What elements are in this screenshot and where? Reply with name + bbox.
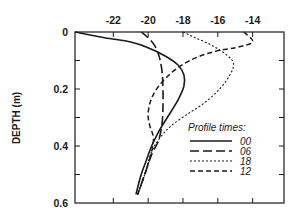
x-tick-label: -16	[210, 14, 225, 26]
x-tick-label: -14	[245, 14, 260, 26]
y-tick-label: 0.6	[53, 197, 68, 209]
curve-18	[138, 32, 234, 194]
curve-00	[75, 32, 185, 194]
x-tick-label: -18	[175, 14, 190, 26]
y-tick-label: 0.2	[53, 83, 68, 95]
x-tick-label: -20	[141, 14, 156, 26]
plot-frame	[75, 32, 284, 203]
legend-title: Profile times:	[188, 122, 246, 133]
curve-12	[138, 32, 253, 194]
y-axis-title: DEPTH (m)	[11, 92, 22, 144]
y-tick-label: 0.4	[53, 140, 68, 152]
x-tick-label: -22	[106, 14, 121, 26]
y-tick-label: 0	[62, 26, 68, 38]
legend: Profile times: 00061812	[188, 122, 252, 177]
profile-curves	[75, 32, 253, 194]
depth-profile-chart: -22-20-18-16-14 00.20.40.6 DEPTH (m) Pro…	[0, 0, 301, 220]
curve-06	[138, 32, 163, 194]
y-axis-ticks: 00.20.40.6	[53, 26, 284, 209]
legend-label-12: 12	[240, 166, 252, 177]
